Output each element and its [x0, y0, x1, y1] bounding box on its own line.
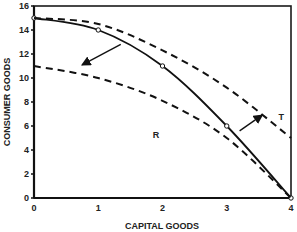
y-tick-label: 12 [19, 49, 29, 59]
x-tick-label: 2 [160, 203, 165, 213]
data-point-marker [96, 28, 100, 32]
y-axis-ticks: 0246810121416 [19, 1, 34, 203]
x-tick-label: 3 [224, 203, 229, 213]
data-point-marker [225, 124, 229, 128]
x-tick-label: 1 [96, 203, 101, 213]
y-tick-label: 4 [24, 145, 29, 155]
annotation-layer: TR [82, 44, 284, 140]
ppf-shifted-in-curve [34, 66, 291, 198]
y-tick-label: 14 [19, 25, 29, 35]
region-label-r: R [153, 130, 160, 140]
y-tick-label: 10 [19, 73, 29, 83]
x-tick-label: 4 [288, 203, 293, 213]
y-tick-label: 0 [24, 193, 29, 203]
y-tick-label: 8 [24, 97, 29, 107]
outward-shift-arrow [240, 115, 262, 131]
y-axis-title: CONSUMER GOODS [2, 58, 12, 147]
y-tick-label: 6 [24, 121, 29, 131]
ppf-shifted-out-curve [34, 18, 291, 138]
data-point-marker [160, 64, 164, 68]
inward-shift-arrow [82, 44, 121, 64]
region-label-t: T [279, 112, 285, 122]
x-axis-title: CAPITAL GOODS [125, 221, 199, 231]
x-axis-ticks: 01234 [31, 203, 293, 213]
y-tick-label: 2 [24, 169, 29, 179]
y-tick-label: 16 [19, 1, 29, 11]
series-layer [32, 16, 293, 200]
x-tick-label: 0 [31, 203, 36, 213]
production-possibilities-chart: 0246810121416 01234 TR CAPITAL GOODS CON… [0, 0, 297, 232]
plot-border [34, 6, 291, 198]
plot-frame [34, 6, 291, 198]
